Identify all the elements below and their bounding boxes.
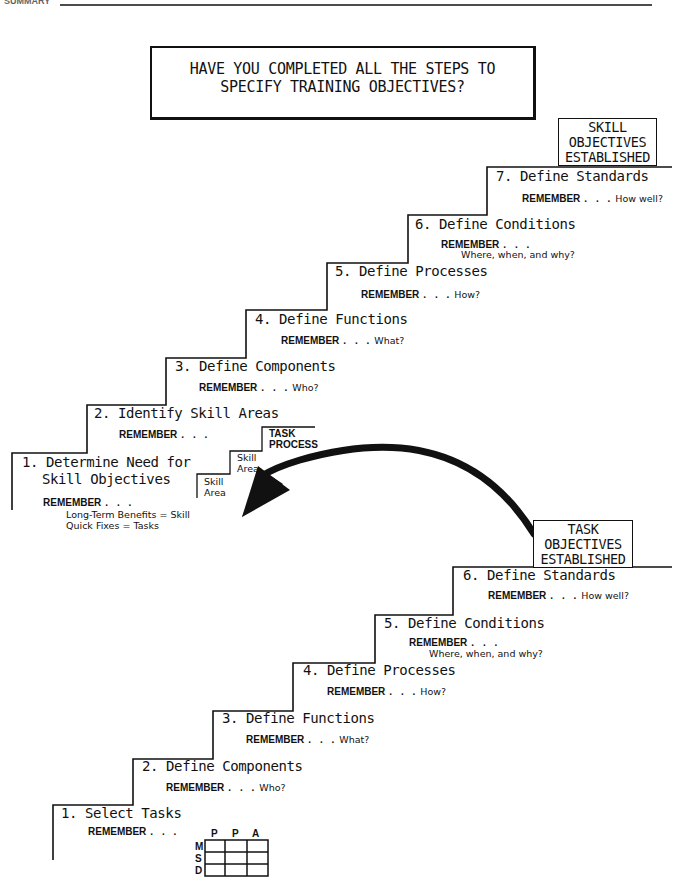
skill-step-6-hint: Where, when, and why? [461, 249, 575, 260]
matrix-col-p2: P [232, 828, 239, 839]
task-step-6-remember: REMEMBER. . .How well? [488, 590, 629, 601]
dots: . . . [343, 335, 372, 346]
mini-line: PROCESS [269, 439, 318, 450]
step-1-line-1: 1. Determine Need for [22, 454, 191, 471]
remember-label: REMEMBER [43, 497, 101, 508]
task-step-3-label: 3. Define Functions [222, 710, 375, 726]
skill-step-3-remember: REMEMBER. . .Who? [199, 382, 319, 393]
hint-text: Who? [259, 782, 285, 793]
task-step-4-label: 4. Define Processes [303, 662, 456, 678]
skill-step-1-note-2: Quick Fixes = Tasks [66, 520, 159, 531]
task-step-3-remember: REMEMBER. . .What? [246, 734, 369, 745]
hint-text: What? [339, 734, 369, 745]
mini-line: Skill [237, 452, 259, 463]
matrix-row-m: M [195, 841, 203, 852]
remember-label: REMEMBER [409, 637, 467, 648]
skill-step-7-label: 7. Define Standards [496, 168, 649, 184]
task-step-5-remember: REMEMBER. . . [409, 637, 500, 648]
mini-level-skill-area-2: Skill Area [237, 452, 259, 474]
dots: . . . [105, 497, 134, 508]
mini-line: Skill [204, 476, 226, 487]
dots: . . . [471, 637, 500, 648]
box-line: OBJECTIVES [534, 537, 632, 552]
remember-label: REMEMBER [119, 429, 177, 440]
task-step-6-label: 6. Define Standards [463, 567, 616, 583]
skill-step-2-remember: REMEMBER. . . [119, 429, 210, 440]
remember-label: REMEMBER [281, 335, 339, 346]
remember-label: REMEMBER [166, 782, 224, 793]
skill-step-5-label: 5. Define Processes [335, 263, 488, 279]
matrix-row-d: D [195, 865, 202, 876]
remember-label: REMEMBER [522, 193, 580, 204]
remember-label: REMEMBER [199, 382, 257, 393]
task-step-1-label: 1. Select Tasks [61, 805, 181, 821]
remember-label: REMEMBER [488, 590, 546, 601]
task-step-5-label: 5. Define Conditions [384, 615, 545, 631]
hint-text: What? [374, 335, 404, 346]
hint-text: How? [454, 289, 480, 300]
matrix-col-a: A [252, 828, 259, 839]
skill-step-1-label: 1. Determine Need for Skill Objectives [22, 454, 191, 488]
ppa-matrix-grid [205, 840, 268, 876]
dots: . . . [228, 782, 257, 793]
skill-step-1-note-1: Long-Term Benefits = Skill [66, 509, 190, 520]
step-1-line-2: Skill Objectives [22, 471, 191, 488]
task-step-2-remember: REMEMBER. . .Who? [166, 782, 286, 793]
task-step-1-remember: REMEMBER. . . [88, 826, 179, 837]
skill-step-5-remember: REMEMBER. . .How? [361, 289, 480, 300]
skill-objectives-established-box: SKILL OBJECTIVES ESTABLISHED [558, 118, 657, 166]
box-line: ESTABLISHED [559, 150, 656, 165]
skill-step-6-label: 6. Define Conditions [415, 216, 576, 232]
mini-line: Area [237, 463, 259, 474]
matrix-col-p1: P [211, 828, 218, 839]
box-line: SKILL [559, 120, 656, 135]
dots: . . . [423, 289, 452, 300]
skill-step-7-remember: REMEMBER. . .How well? [522, 193, 663, 204]
remember-label: REMEMBER [361, 289, 419, 300]
dots: . . . [584, 193, 613, 204]
mini-level-skill-area-1: Skill Area [204, 476, 226, 498]
hint-text: How? [420, 686, 446, 697]
title-box: HAVE YOU COMPLETED ALL THE STEPS TO SPEC… [150, 46, 536, 120]
remember-label: REMEMBER [246, 734, 304, 745]
skill-step-1-remember: REMEMBER. . . [43, 497, 134, 508]
hint-text: How well? [581, 590, 629, 601]
remember-label: REMEMBER [88, 826, 146, 837]
dots: . . . [389, 686, 418, 697]
matrix-row-s: S [195, 853, 202, 864]
title-line-2: SPECIFY TRAINING OBJECTIVES? [152, 78, 533, 96]
skill-step-4-remember: REMEMBER. . .What? [281, 335, 404, 346]
dots: . . . [181, 429, 210, 440]
page-title: HAVE YOU COMPLETED ALL THE STEPS TO SPEC… [152, 60, 533, 96]
box-line: OBJECTIVES [559, 135, 656, 150]
dots: . . . [308, 734, 337, 745]
mini-level-task-process: TASK PROCESS [269, 428, 318, 450]
dots: . . . [550, 590, 579, 601]
skill-step-4-label: 4. Define Functions [255, 311, 408, 327]
hint-text: Who? [292, 382, 318, 393]
mini-line: TASK [269, 428, 318, 439]
skill-step-2-label: 2. Identify Skill Areas [94, 405, 279, 421]
box-line: TASK [534, 522, 632, 537]
title-line-1: HAVE YOU COMPLETED ALL THE STEPS TO [152, 60, 533, 78]
task-objectives-established-box: TASK OBJECTIVES ESTABLISHED [533, 520, 633, 568]
box-line: ESTABLISHED [534, 552, 632, 567]
task-step-2-label: 2. Define Components [142, 758, 303, 774]
mini-line: Area [204, 487, 226, 498]
skill-step-3-label: 3. Define Components [175, 358, 336, 374]
dots: . . . [261, 382, 290, 393]
dots: . . . [150, 826, 179, 837]
hint-text: How well? [615, 193, 663, 204]
task-step-4-remember: REMEMBER. . .How? [327, 686, 446, 697]
task-step-5-hint: Where, when, and why? [429, 648, 543, 659]
remember-label: REMEMBER [327, 686, 385, 697]
